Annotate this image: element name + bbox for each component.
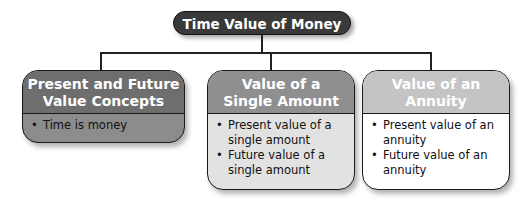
root-title-node: Time Value of Money: [173, 11, 351, 35]
list-item-text: Present value of a single amount: [228, 118, 346, 148]
bullet-icon: •: [371, 148, 383, 178]
bullet-icon: •: [371, 118, 383, 148]
list-item: • Present value of an annuity: [371, 118, 501, 148]
bullet-icon: •: [31, 118, 43, 133]
connector-horizontal: [100, 52, 431, 54]
heading-line: Value of an: [367, 76, 505, 93]
connector-middle-drop: [270, 52, 272, 70]
heading-line: Present and Future: [27, 76, 180, 93]
node-body: • Time is money: [23, 114, 184, 139]
connector-left-drop: [100, 52, 102, 70]
node-present-future-value-concepts: Present and Future Value Concepts • Time…: [22, 70, 185, 143]
node-body: • Present value of an annuity • Future v…: [363, 114, 509, 184]
list-item: • Future value of an annuity: [371, 148, 501, 178]
connector-root-vertical: [261, 35, 263, 53]
node-body: • Present value of a single amount • Fut…: [208, 114, 354, 184]
list-item-text: Future value of a single amount: [228, 148, 346, 178]
list-item-text: Present value of an annuity: [383, 118, 501, 148]
bullet-icon: •: [216, 118, 228, 148]
list-item: • Present value of a single amount: [216, 118, 346, 148]
heading-line: Single Amount: [212, 93, 350, 110]
node-heading: Value of an Annuity: [363, 71, 509, 114]
list-item-text: Time is money: [43, 118, 127, 133]
heading-line: Value Concepts: [27, 93, 180, 110]
list-item-text: Future value of an annuity: [383, 148, 501, 178]
node-value-of-single-amount: Value of a Single Amount • Present value…: [207, 70, 355, 190]
heading-line: Value of a: [212, 76, 350, 93]
connector-right-drop: [430, 52, 432, 70]
bullet-icon: •: [216, 148, 228, 178]
node-value-of-annuity: Value of an Annuity • Present value of a…: [362, 70, 510, 190]
list-item: • Time is money: [31, 118, 176, 133]
heading-line: Annuity: [367, 93, 505, 110]
node-heading: Present and Future Value Concepts: [23, 71, 184, 114]
list-item: • Future value of a single amount: [216, 148, 346, 178]
node-heading: Value of a Single Amount: [208, 71, 354, 114]
